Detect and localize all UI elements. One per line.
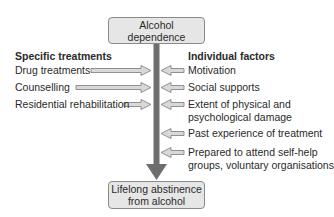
main-shaft-arrow bbox=[154, 44, 160, 166]
bottom-box-line2: from alcohol bbox=[128, 195, 185, 207]
right-arrow-social bbox=[161, 83, 184, 93]
left-item-drug-treatments: Drug treatments bbox=[15, 64, 90, 76]
bottom-box-line1: Lifelong abstinence bbox=[111, 183, 202, 195]
left-arrow-counselling bbox=[76, 83, 151, 93]
left-arrow-drug-treatments bbox=[91, 66, 151, 76]
left-item-residential-rehabilitation: Residential rehabilitation bbox=[15, 98, 129, 110]
bottom-box-lifelong-abstinence: Lifelong abstinence from alcohol bbox=[108, 181, 205, 209]
right-arrow-motivation bbox=[161, 66, 184, 76]
right-item-social-supports: Social supports bbox=[188, 81, 260, 93]
left-item-counselling: Counselling bbox=[15, 81, 70, 93]
right-item-prepared-line1: Prepared to attend self-help bbox=[188, 146, 318, 158]
right-item-past-experience: Past experience of treatment bbox=[188, 127, 322, 139]
right-arrow-extent bbox=[161, 100, 184, 110]
right-item-prepared-line2: groups, voluntary organisations bbox=[188, 159, 334, 171]
right-arrow-past bbox=[161, 129, 184, 139]
main-arrowhead bbox=[146, 164, 167, 180]
right-item-extent-line2: psychological damage bbox=[188, 111, 292, 123]
right-item-extent-line1: Extent of physical and bbox=[188, 98, 291, 110]
top-box-label: Alcohol dependence bbox=[109, 19, 204, 43]
left-header: Specific treatments bbox=[15, 50, 112, 62]
top-box-alcohol-dependence: Alcohol dependence bbox=[108, 17, 205, 44]
right-header: Individual factors bbox=[188, 50, 275, 62]
right-arrow-prepared bbox=[161, 148, 184, 158]
right-arrows bbox=[161, 66, 184, 158]
right-item-motivation: Motivation bbox=[188, 64, 236, 76]
